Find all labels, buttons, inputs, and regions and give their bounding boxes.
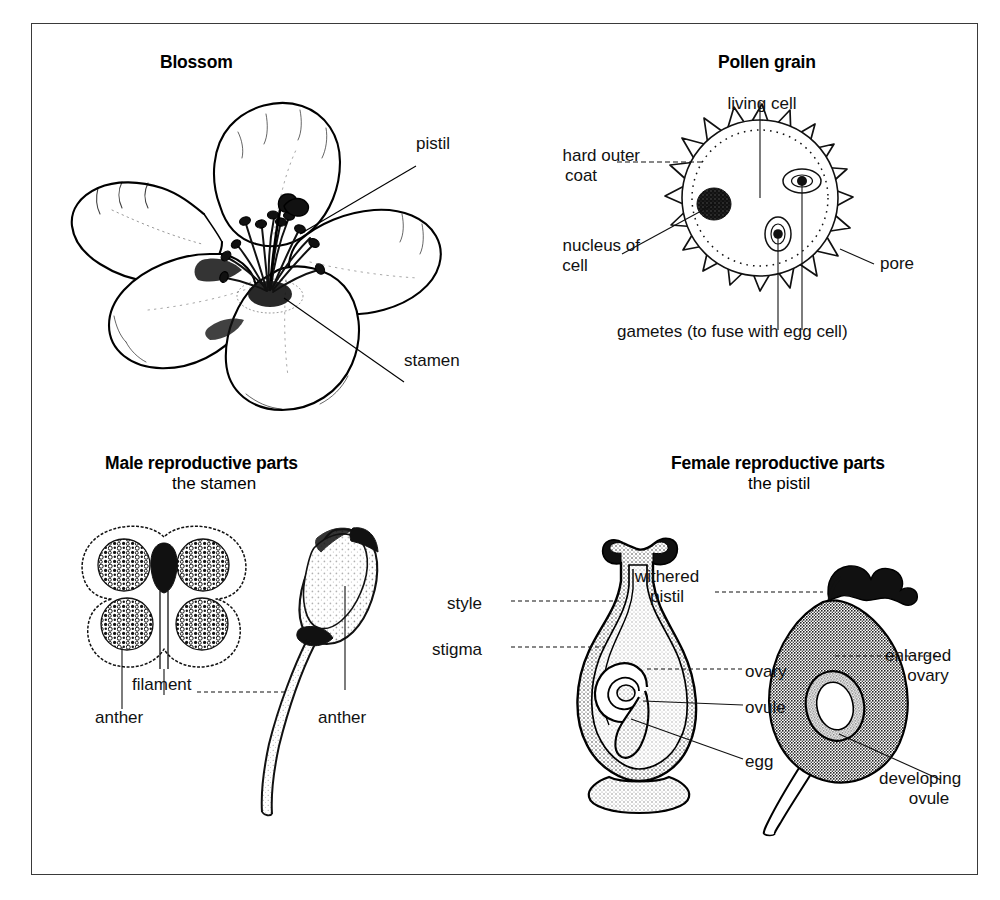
label-stigma: stigma [432,640,482,659]
label-nucleus-line1: nucleus of [510,236,640,255]
label-egg: egg [745,752,773,771]
label-enlarged-ovary-line1: enlarged [885,646,951,665]
label-anther-right: anther [318,708,366,727]
label-stamen: stamen [404,351,460,370]
leader-pore [840,249,874,264]
label-developing-ovule-line1: developing [879,769,961,788]
label-ovule: ovule [745,698,786,717]
figure-frame: Blossom [31,23,978,875]
anther-cross-section-icon [72,519,272,679]
label-developing-ovule-line2: ovule [879,789,979,808]
botanical-diagram-figure: Blossom [0,0,1000,900]
label-pistil: pistil [416,134,450,153]
label-filament: filament [132,675,192,694]
male-parts-heading: Male reproductive parts [105,453,298,474]
label-withered-pistil-line2: pistil [607,587,727,606]
pollen-grain-heading: Pollen grain [718,52,816,73]
label-ovary: ovary [745,662,787,681]
stamen-side-view-icon [257,524,447,824]
blossom-heading: Blossom [160,52,233,73]
label-anther-left: anther [95,708,143,727]
panel-female-reproductive-parts: Female reproductive parts the pistil [502,424,979,874]
label-enlarged-ovary-line2: ovary [885,666,971,685]
panel-pollen-grain: Pollen grain [502,24,979,424]
label-pore: pore [880,254,914,273]
label-hard-outer-coat-line2: coat [522,166,640,185]
female-parts-heading: Female reproductive parts [671,453,885,474]
label-nucleus-line2: cell [510,256,640,275]
label-withered-pistil-line1: withered [607,567,727,586]
female-parts-subheading: the pistil [748,474,810,494]
label-gametes: gametes (to fuse with egg cell) [617,322,848,341]
label-hard-outer-coat-line1: hard outer [522,146,640,165]
withered-pistil [828,566,917,605]
panel-blossom: Blossom [32,24,502,424]
label-living-cell: living cell [692,94,832,113]
male-parts-subheading: the stamen [172,474,256,494]
label-style: style [447,594,482,613]
